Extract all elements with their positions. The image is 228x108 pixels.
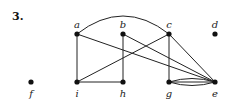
vertex-d [212,31,217,36]
edge-a-e [77,34,215,82]
vertex-c [166,31,171,36]
vertex-label-i: i [75,88,78,99]
edges-layer [77,16,215,86]
vertex-label-b: b [120,19,126,30]
vertex-f [28,79,33,84]
vertex-label-h: h [120,88,126,99]
problem-number: 3. [12,10,23,23]
edge-c-e [169,34,215,82]
vertex-i [74,79,79,84]
graph-diagram: 3. abcdefghi [0,0,228,108]
vertex-e [212,79,217,84]
vertex-b [120,31,125,36]
vertex-a [74,31,79,36]
edge-g-e [169,82,215,86]
vertex-label-d: d [212,19,218,30]
edge-g-e [169,79,215,83]
vertex-label-c: c [166,19,172,30]
vertex-label-f: f [28,88,35,99]
vertex-label-g: g [166,88,172,99]
vertex-label-a: a [74,19,80,30]
vertex-g [166,79,171,84]
vertex-h [120,79,125,84]
vertex-label-e: e [212,88,218,99]
